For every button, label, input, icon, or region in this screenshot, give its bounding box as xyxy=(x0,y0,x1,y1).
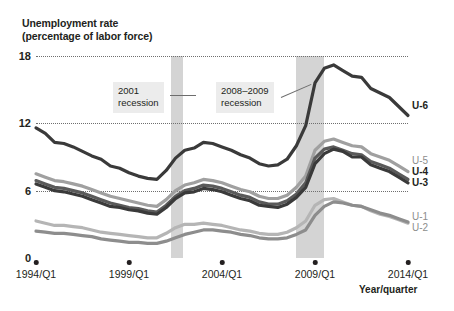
series-line-u-1 xyxy=(36,202,408,244)
annotation-line-1: 2001 xyxy=(118,85,159,97)
page-title: Unemployment rate xyxy=(22,17,152,30)
annotation-2001-recession: 2001 recession xyxy=(113,82,164,113)
y-axis-tick-label: 12 xyxy=(19,117,31,129)
y-axis-tick-label: 18 xyxy=(19,50,31,62)
unemployment-rate-chart: Unemployment rate (percentage of labor f… xyxy=(0,0,454,311)
annotation-2008-2009-recession: 2008–2009 recession xyxy=(216,82,274,113)
y-axis-tick-label: 6 xyxy=(25,185,31,197)
series-label-u-6: U-6 xyxy=(412,100,428,111)
leader-line-2001-recession xyxy=(170,95,196,96)
x-axis-tick-label: 1999/Q1 xyxy=(109,268,149,280)
series-label-u-5: U-5 xyxy=(412,155,428,166)
y-axis-tick-label: 0 xyxy=(25,252,31,264)
x-axis-tick-marker xyxy=(313,260,318,265)
x-axis-caption: Year/quarter xyxy=(359,284,417,295)
x-axis-tick-label: 2014/Q1 xyxy=(388,268,428,280)
annotation-line-2: recession xyxy=(221,97,269,109)
series-label-u-4: U-4 xyxy=(412,166,428,177)
x-axis-tick-marker xyxy=(220,260,225,265)
x-axis-tick-label: 2009/Q1 xyxy=(295,268,335,280)
series-label-u-3: U-3 xyxy=(412,177,428,188)
annotation-line-2: recession xyxy=(118,97,159,109)
x-axis-tick-marker xyxy=(34,260,39,265)
x-axis-tick-marker xyxy=(406,260,411,265)
x-axis-tick-marker xyxy=(127,260,132,265)
chart-subtitle: (percentage of labor force) xyxy=(22,30,152,43)
chart-title-block: Unemployment rate (percentage of labor f… xyxy=(22,17,152,43)
x-axis-tick-label: 2004/Q1 xyxy=(202,268,242,280)
series-label-u-1: U-1 xyxy=(412,211,428,222)
x-axis-tick-label: 1994/Q1 xyxy=(16,268,56,280)
series-label-u-2: U-2 xyxy=(412,222,428,233)
annotation-line-1: 2008–2009 xyxy=(221,85,269,97)
